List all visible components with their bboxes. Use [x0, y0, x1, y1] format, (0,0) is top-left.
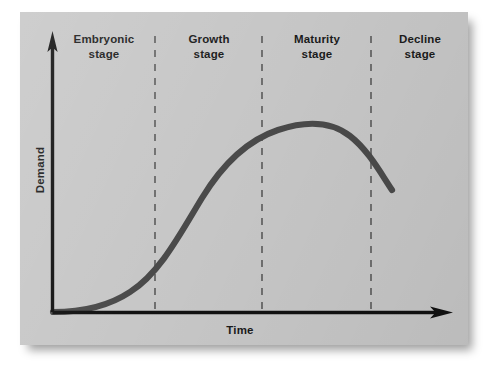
- stage-dividers: [155, 36, 371, 312]
- stage-label-decline-line1: Decline: [399, 33, 441, 45]
- product-life-cycle-chart: [20, 12, 468, 345]
- stage-label-embryonic-line1: Embryonic: [74, 33, 135, 45]
- y-axis: [47, 31, 57, 312]
- stage-label-growth-line2: stage: [156, 47, 262, 62]
- stage-label-maturity-line2: stage: [263, 47, 371, 62]
- stage-label-maturity-line1: Maturity: [294, 33, 340, 45]
- stage-label-embryonic-line2: stage: [52, 47, 156, 62]
- stage-label-growth-line1: Growth: [188, 33, 229, 45]
- stage-label-growth: Growth stage: [156, 32, 262, 61]
- stage-label-decline: Decline stage: [372, 32, 468, 61]
- stage-label-embryonic: Embryonic stage: [52, 32, 156, 61]
- x-axis-title: Time: [205, 324, 275, 336]
- y-axis-title: Demand: [34, 135, 46, 205]
- x-axis: [53, 307, 454, 319]
- figure-panel: Embryonic stage Growth stage Maturity st…: [20, 12, 468, 345]
- stage-label-maturity: Maturity stage: [263, 32, 371, 61]
- demand-curve: [53, 124, 392, 312]
- stage-label-decline-line2: stage: [372, 47, 468, 62]
